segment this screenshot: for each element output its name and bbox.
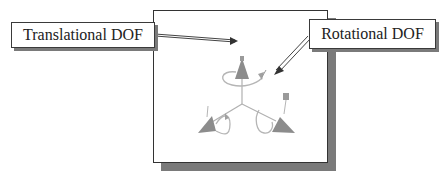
rotational-pointer-arrow: [274, 36, 311, 75]
rotational-dof-label: Rotational DOF: [309, 19, 436, 49]
translational-dof-label: Translational DOF: [11, 22, 155, 48]
translational-pointer-arrow: [155, 34, 238, 45]
